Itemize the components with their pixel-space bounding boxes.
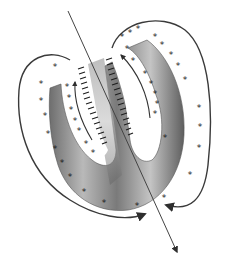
- svg-text:*: *: [169, 50, 174, 60]
- svg-text:*: *: [162, 193, 167, 203]
- svg-text:*: *: [155, 99, 160, 109]
- svg-text:*: *: [46, 129, 51, 139]
- svg-text:*: *: [53, 144, 58, 154]
- svg-text:*: *: [135, 201, 140, 211]
- svg-text:*: *: [153, 89, 158, 99]
- svg-text:*: *: [125, 44, 130, 54]
- svg-text:*: *: [53, 62, 58, 72]
- svg-text:*: *: [163, 133, 168, 143]
- svg-text:*: *: [183, 75, 188, 85]
- svg-text:*: *: [102, 198, 107, 208]
- svg-text:*: *: [143, 69, 148, 79]
- svg-text:*: *: [149, 79, 154, 89]
- svg-text:*: *: [69, 105, 74, 115]
- svg-text:*: *: [188, 170, 193, 180]
- svg-text:*: *: [73, 116, 78, 126]
- svg-text:*: *: [120, 32, 125, 42]
- svg-text:*: *: [67, 93, 72, 103]
- svg-text:*: *: [197, 103, 202, 113]
- svg-text:*: *: [82, 187, 87, 197]
- svg-text:*: *: [198, 122, 203, 132]
- svg-text:*: *: [136, 24, 141, 34]
- svg-text:*: *: [91, 148, 96, 158]
- diagram-canvas: * * * * * * * * * * * * * * * * * * * * …: [0, 0, 225, 264]
- svg-text:*: *: [153, 32, 158, 42]
- svg-text:*: *: [153, 109, 158, 119]
- svg-text:*: *: [60, 158, 65, 168]
- svg-text:*: *: [77, 126, 82, 136]
- svg-text:*: *: [65, 82, 70, 92]
- svg-text:*: *: [84, 139, 89, 149]
- svg-text:*: *: [39, 79, 44, 89]
- svg-text:*: *: [39, 96, 44, 106]
- svg-text:*: *: [197, 143, 202, 153]
- svg-text:*: *: [43, 111, 48, 121]
- svg-text:*: *: [160, 40, 165, 50]
- svg-text:*: *: [128, 28, 133, 38]
- svg-text:*: *: [176, 61, 181, 71]
- svg-text:*: *: [131, 56, 136, 66]
- svg-text:*: *: [68, 172, 73, 182]
